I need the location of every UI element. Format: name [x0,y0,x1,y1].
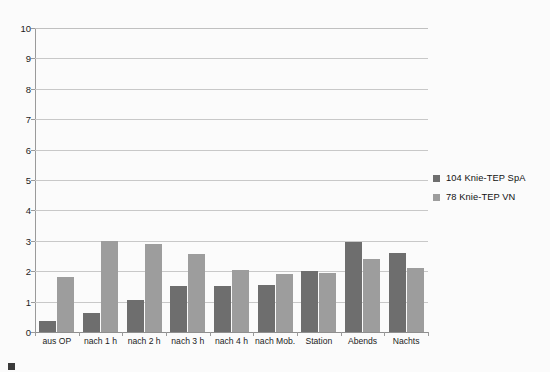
y-tick-label: 0 [5,327,31,338]
legend-item: 78 Knie-TEP VN [433,192,548,202]
legend-item: 104 Knie-TEP SpA [433,173,548,183]
x-tick-label: nach Mob. [253,336,297,346]
x-tick-label: aus OP [35,336,79,346]
bar-group [253,28,297,332]
x-axis-baseline [35,332,428,333]
bar-group [297,28,341,332]
bar [407,268,424,332]
bar [83,313,100,332]
x-tick-mark [341,332,342,336]
y-tick-label: 6 [5,144,31,155]
x-tick-label: nach 3 h [166,336,210,346]
bar-group [79,28,123,332]
y-tick-label: 9 [5,53,31,64]
x-tick-mark [428,332,429,336]
y-tick-label: 8 [5,83,31,94]
figure-caption [8,363,548,372]
bar [276,274,293,332]
bar [145,244,162,332]
bar [363,259,380,332]
legend-label: 78 Knie-TEP VN [446,192,515,202]
bar [188,254,205,332]
x-tick-label: nach 1 h [79,336,123,346]
x-tick-mark [166,332,167,336]
bar [57,277,74,332]
y-tick-label: 4 [5,205,31,216]
bar-group [341,28,385,332]
bar [39,321,56,332]
bar-group [35,28,79,332]
x-tick-label: Station [297,336,341,346]
y-tick-label: 10 [5,23,31,34]
bar [170,286,187,332]
legend-label: 104 Knie-TEP SpA [446,173,525,183]
bar-group [122,28,166,332]
x-tick-mark [210,332,211,336]
legend-swatch [433,194,440,201]
bar [345,242,362,332]
x-tick-label: Abends [341,336,385,346]
x-tick-label: nach 2 h [122,336,166,346]
bar [319,273,336,332]
x-tick-mark [79,332,80,336]
x-tick-mark [384,332,385,336]
bar-group [384,28,428,332]
caption-marker [8,363,15,370]
x-tick-label: Nachts [384,336,428,346]
bar [214,286,231,332]
legend: 104 Knie-TEP SpA78 Knie-TEP VN [433,173,548,211]
x-tick-mark [253,332,254,336]
bar [258,285,275,332]
bar [232,270,249,332]
plot-area [35,28,428,332]
bar [389,253,406,332]
x-tick-label: nach 4 h [210,336,254,346]
y-axis: 012345678910 [0,28,31,332]
y-tick-label: 2 [5,266,31,277]
y-tick-label: 5 [5,175,31,186]
bar-group [166,28,210,332]
bar [101,241,118,332]
bar-chart: 012345678910 aus OPnach 1 hnach 2 hnach … [0,0,550,356]
x-tick-mark [297,332,298,336]
bar-group [210,28,254,332]
x-tick-mark [122,332,123,336]
bar [127,300,144,332]
y-tick-label: 3 [5,235,31,246]
y-tick-label: 1 [5,296,31,307]
x-axis: aus OPnach 1 hnach 2 hnach 3 hnach 4 hna… [35,336,428,352]
figure: 012345678910 aus OPnach 1 hnach 2 hnach … [0,0,550,372]
x-tick-mark [35,332,36,336]
legend-swatch [433,175,440,182]
bar [301,271,318,332]
y-tick-label: 7 [5,114,31,125]
